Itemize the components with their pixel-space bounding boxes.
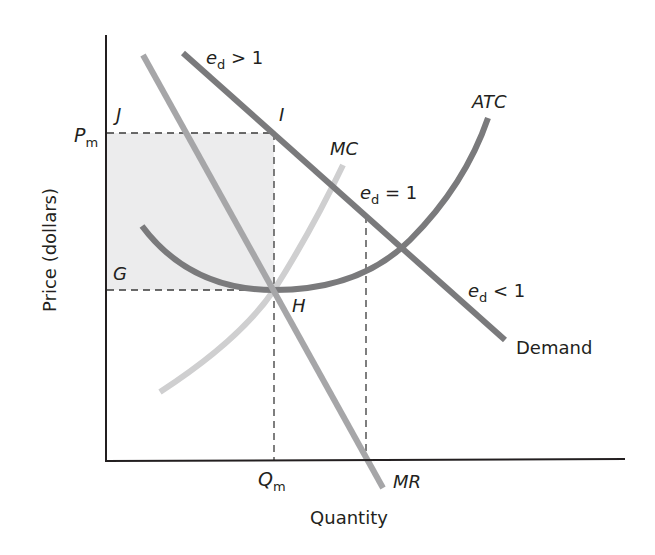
mr-label: MR (393, 471, 421, 492)
x-axis-label: Quantity (310, 507, 388, 528)
inelastic-label: ed < 1 (468, 280, 525, 305)
point-j-label: J (113, 104, 121, 125)
qm-label: Qm (258, 468, 286, 494)
monopoly-diagram: Price (dollars) Quantity Pm Qm J I G H A… (0, 0, 655, 555)
point-i-label: I (279, 104, 284, 125)
point-g-label: G (113, 263, 127, 284)
unit-elastic-label: ed = 1 (360, 182, 417, 207)
pm-label: Pm (74, 124, 98, 150)
atc-label: ATC (471, 91, 507, 112)
demand-label: Demand (516, 337, 592, 358)
elastic-label: ed > 1 (206, 47, 263, 72)
mc-label: MC (330, 138, 359, 159)
y-axis-label: Price (dollars) (39, 188, 60, 312)
x-axis (105, 459, 625, 461)
point-h-label: H (292, 295, 306, 316)
